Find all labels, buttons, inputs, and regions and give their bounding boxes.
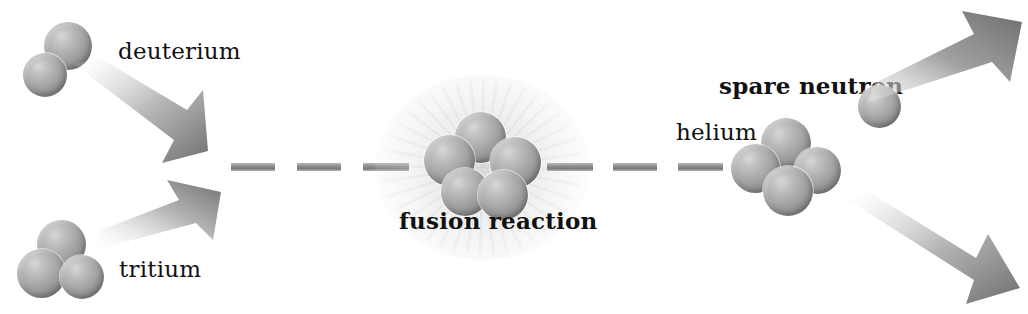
fusion-reaction-diagram: deuterium tritium (0, 0, 1028, 314)
helium-arrow (848, 188, 1028, 306)
dash-segment (613, 163, 657, 171)
dash-segment (297, 163, 341, 171)
fusion-reaction-label: fusion reaction (399, 209, 597, 232)
deuterium-arrow (70, 58, 210, 163)
nucleon (60, 255, 104, 299)
tritium-label: tritium (119, 258, 201, 281)
dash-segment (231, 163, 275, 171)
spare-neutron-arrow (866, 8, 1028, 120)
helium-label: helium (676, 121, 757, 144)
tritium-arrow (95, 178, 223, 258)
dash-segment (678, 163, 723, 171)
nucleon (763, 166, 813, 216)
nucleon (17, 249, 66, 298)
nucleon (23, 53, 67, 97)
dash-segment (547, 163, 593, 171)
